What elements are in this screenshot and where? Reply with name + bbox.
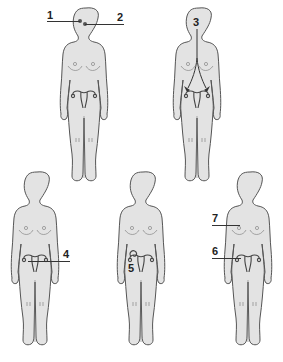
label-1: 1 (47, 10, 53, 21)
label-3: 3 (193, 17, 199, 28)
leader-6 (212, 258, 241, 259)
leader-4 (28, 261, 70, 262)
label-7: 7 (212, 213, 218, 224)
label-4: 4 (63, 249, 69, 260)
label-6: 6 (212, 246, 218, 257)
leader-7 (212, 225, 240, 226)
figure-bottom-right (0, 0, 283, 362)
label-2: 2 (117, 12, 123, 23)
label-5: 5 (128, 263, 134, 274)
leader-2 (85, 24, 124, 25)
leader-1 (47, 21, 80, 22)
